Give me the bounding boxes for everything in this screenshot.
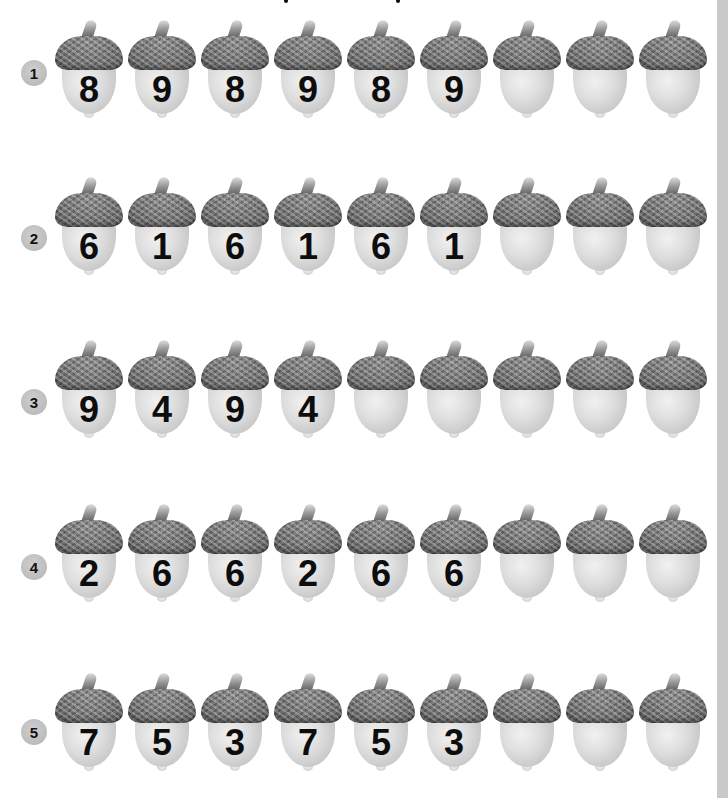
acorn-icon-numbered[interactable]: 9 [128,20,196,120]
pattern-row-5: 5 7 5 3 7 5 [0,673,717,798]
acorn-icon-numbered[interactable]: 7 [55,673,123,773]
acorn-cap [420,36,488,70]
acorn-body: 7 [281,717,335,767]
acorn-cap [639,356,707,390]
acorn-body: 6 [427,548,481,598]
acorn-cap [493,36,561,70]
acorn-icon-numbered[interactable]: 1 [274,177,342,277]
acorn-icon-blank[interactable] [347,340,415,440]
acorn-icon-numbered[interactable]: 5 [347,673,415,773]
acorn-icon-blank[interactable] [566,20,634,120]
acorn-cap [566,520,634,554]
acorn-cap [274,520,342,554]
acorn-icon-numbered[interactable]: 8 [347,20,415,120]
acorn-number: 9 [152,72,172,108]
acorn-body: 6 [135,548,189,598]
acorn-body [573,64,627,114]
acorn-icon-blank[interactable] [639,177,707,277]
acorn-icon-blank[interactable] [566,177,634,277]
acorn-number: 8 [79,72,99,108]
acorn-icon-blank[interactable] [639,340,707,440]
acorn-icon-blank[interactable] [566,340,634,440]
acorn-cap [201,36,269,70]
acorn-cap [55,356,123,390]
acorn-body: 1 [281,221,335,271]
acorn-number: 9 [444,72,464,108]
acorn-icon-numbered[interactable]: 6 [201,177,269,277]
acorn-body: 6 [208,548,262,598]
acorn-icon-numbered[interactable]: 9 [201,340,269,440]
acorn-body: 9 [281,64,335,114]
acorn-icon-numbered[interactable]: 2 [55,504,123,604]
acorn-icon-numbered[interactable]: 4 [274,340,342,440]
acorn-body [500,717,554,767]
acorn-number: 4 [298,392,318,428]
acorn-body [500,384,554,434]
acorn-body: 7 [62,717,116,767]
acorn-icon-blank[interactable] [639,673,707,773]
acorn-icon-blank[interactable] [493,177,561,277]
row-number-badge: 2 [21,225,47,251]
acorn-icon-blank[interactable] [566,504,634,604]
acorn-cap [639,520,707,554]
pattern-row-4: 4 2 6 6 2 6 [0,504,717,634]
acorn-cap [493,520,561,554]
acorn-number: 2 [79,556,99,592]
acorn-cap [493,193,561,227]
acorn-icon-numbered[interactable]: 6 [128,504,196,604]
acorn-number: 6 [79,229,99,265]
acorn-icon-blank[interactable] [566,673,634,773]
acorn-icon-numbered[interactable]: 8 [201,20,269,120]
acorn-icon-numbered[interactable]: 4 [128,340,196,440]
acorn-number: 1 [152,229,172,265]
acorn-icon-numbered[interactable]: 6 [347,504,415,604]
acorn-icon-blank[interactable] [493,340,561,440]
acorn-icon-numbered[interactable]: 5 [128,673,196,773]
acorn-number: 7 [298,725,318,761]
acorn-icon-blank[interactable] [493,20,561,120]
acorn-number: 6 [152,556,172,592]
acorn-body: 6 [62,221,116,271]
acorn-number: 6 [225,556,245,592]
acorn-body [646,717,700,767]
acorn-cap [347,193,415,227]
acorn-number: 5 [371,725,391,761]
acorn-body: 8 [62,64,116,114]
acorn-icon-numbered[interactable]: 2 [274,504,342,604]
acorn-icon-numbered[interactable]: 9 [274,20,342,120]
acorn-icon-numbered[interactable]: 3 [201,673,269,773]
acorn-icon-numbered[interactable]: 1 [128,177,196,277]
acorn-cap [274,36,342,70]
acorn-cap [201,689,269,723]
acorn-icon-numbered[interactable]: 8 [55,20,123,120]
page-edge-strip [717,0,728,798]
acorn-icon-blank[interactable] [493,673,561,773]
acorn-icon-numbered[interactable]: 9 [55,340,123,440]
acorn-body [646,221,700,271]
acorn-icon-blank[interactable] [493,504,561,604]
acorn-body [646,548,700,598]
acorn-cap [566,689,634,723]
acorn-body [354,384,408,434]
acorn-number: 8 [225,72,245,108]
acorn-icon-numbered[interactable]: 7 [274,673,342,773]
acorn-body: 2 [281,548,335,598]
acorn-cap [566,36,634,70]
acorn-number: 9 [298,72,318,108]
acorn-number: 2 [298,556,318,592]
acorn-icon-numbered[interactable]: 3 [420,673,488,773]
acorn-icon-numbered[interactable]: 9 [420,20,488,120]
acorn-icon-numbered[interactable]: 6 [420,504,488,604]
acorn-icon-numbered[interactable]: 6 [201,504,269,604]
acorn-icon-blank[interactable] [639,20,707,120]
acorn-icon-numbered[interactable]: 6 [347,177,415,277]
acorn-cap [493,356,561,390]
acorn-icon-numbered[interactable]: 1 [420,177,488,277]
acorn-cap [55,193,123,227]
acorn-icon-numbered[interactable]: 6 [55,177,123,277]
acorn-body: 8 [208,64,262,114]
acorn-icon-blank[interactable] [639,504,707,604]
acorn-cap [639,36,707,70]
acorn-number: 6 [225,229,245,265]
acorn-icon-blank[interactable] [420,340,488,440]
